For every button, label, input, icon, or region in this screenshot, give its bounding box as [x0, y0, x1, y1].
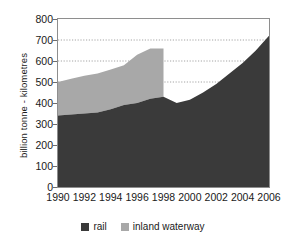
y-tick-label: 200: [1, 140, 53, 151]
legend-swatch-icon: [121, 223, 129, 231]
y-tick-label: 300: [1, 119, 53, 130]
legend-label: inland waterway: [133, 222, 205, 232]
legend-swatch-icon: [81, 223, 89, 231]
y-tick-label: 600: [1, 56, 53, 67]
y-tick-label: 400: [1, 98, 53, 109]
legend-item[interactable]: rail: [81, 222, 106, 232]
y-tick-label: 500: [1, 77, 53, 88]
area-chart: billion tonne - kilometres 0100200300400…: [0, 0, 286, 244]
plot-area: [57, 18, 270, 188]
plot-svg: [58, 19, 269, 187]
legend-label: rail: [93, 222, 106, 232]
y-tick-label: 800: [1, 14, 53, 25]
chart-legend: railinland waterway: [0, 219, 286, 235]
y-tick-label: 100: [1, 161, 53, 172]
x-tick-label: 2006: [249, 191, 286, 203]
y-tick-label: 700: [1, 35, 53, 46]
y-axis-tick-labels: 0100200300400500600700800: [0, 0, 53, 244]
legend-item[interactable]: inland waterway: [121, 222, 205, 232]
x-axis-tick-labels: 199019921994199619982000200220042006: [0, 191, 286, 207]
